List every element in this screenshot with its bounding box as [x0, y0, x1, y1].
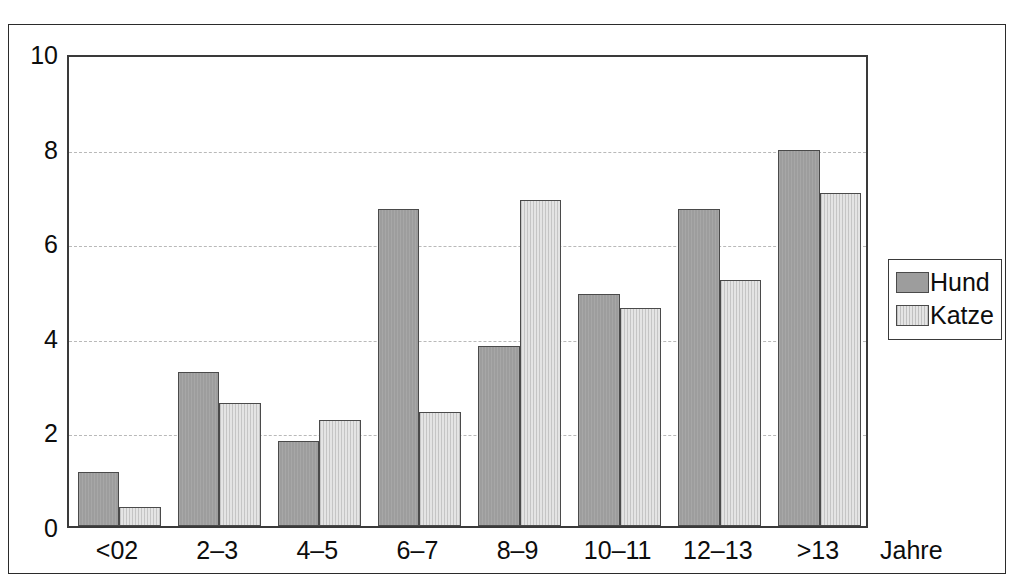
- y-tick-label-10: 10: [8, 41, 58, 70]
- plot-area: [67, 55, 868, 528]
- bar-hund-3: [378, 209, 420, 526]
- y-tick-label-4: 4: [8, 324, 58, 353]
- bar-katze-4: [520, 200, 562, 526]
- bar-hund-5: [578, 294, 620, 526]
- dark-gray-swatch-icon: [896, 272, 929, 293]
- bar-hund-1: [178, 372, 220, 526]
- x-tick-label-1: 2–3: [196, 536, 238, 565]
- bar-katze-7: [820, 193, 862, 526]
- x-axis-unit-label: Jahre: [880, 536, 943, 565]
- bar-hund-0: [78, 472, 120, 526]
- legend-item-katze[interactable]: Katze: [896, 299, 994, 332]
- x-tick-label-2: 4–5: [296, 536, 338, 565]
- bar-hund-6: [678, 209, 720, 526]
- bars-layer: [69, 57, 866, 526]
- bar-hund-2: [278, 441, 320, 526]
- x-tick-label-3: 6–7: [397, 536, 439, 565]
- x-tick-label-7: >13: [797, 536, 839, 565]
- legend-label-katze: Katze: [930, 303, 994, 328]
- y-tick-label-6: 6: [8, 230, 58, 259]
- bar-katze-0: [119, 507, 161, 526]
- legend-item-hund[interactable]: Hund: [896, 266, 994, 299]
- bar-katze-2: [319, 420, 361, 526]
- y-tick-label-2: 2: [8, 419, 58, 448]
- legend-label-hund: Hund: [930, 270, 990, 295]
- x-tick-label-4: 8–9: [497, 536, 539, 565]
- bar-hund-7: [778, 150, 820, 526]
- x-tick-label-5: 10–11: [584, 536, 652, 565]
- x-tick-label-6: 12–13: [683, 536, 753, 565]
- bar-katze-1: [219, 403, 261, 526]
- bar-hund-4: [478, 346, 520, 526]
- bar-katze-3: [419, 412, 461, 526]
- x-tick-label-0: <02: [96, 536, 138, 565]
- bar-katze-5: [620, 308, 662, 526]
- y-tick-label-0: 0: [8, 514, 58, 543]
- chart-legend: Hund Katze: [888, 259, 1002, 340]
- y-tick-label-8: 8: [8, 135, 58, 164]
- light-gray-swatch-icon: [896, 305, 929, 326]
- bar-katze-6: [720, 280, 762, 526]
- chart-figure: 0246810 <022–34–56–78–910–1112–13>13 Jah…: [0, 0, 1016, 588]
